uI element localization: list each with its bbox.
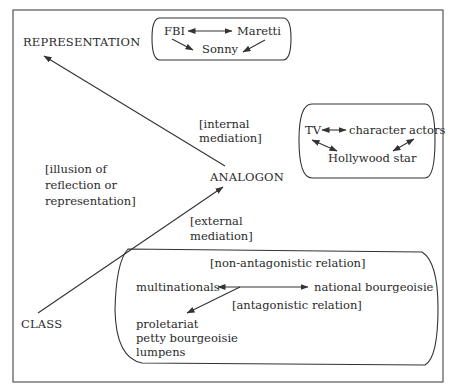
item-national-bourgeoisie: national bourgeoisie	[314, 280, 434, 294]
arrow-tv-hollywood	[312, 140, 337, 151]
diagram-canvas: REPRESENTATION ANALOGON CLASS [illusion …	[0, 0, 450, 392]
analogon-box: TV character actors Hollywood star	[299, 104, 445, 178]
item-multinationals: multinationals	[136, 280, 220, 294]
item-fbi: FBI	[164, 24, 185, 38]
svg-text:[internal: [internal	[199, 117, 250, 131]
label-non-antagonistic: [non-antagonistic relation]	[210, 256, 365, 270]
svg-text:reflection or: reflection or	[45, 178, 117, 192]
arrow-analogon-to-representation	[44, 56, 225, 166]
svg-text:mediation]: mediation]	[190, 229, 253, 243]
item-petty-bourgeoisie: petty bourgeoisie	[136, 331, 238, 345]
arrow-actors-hollywood	[393, 139, 414, 151]
item-hollywood-star: Hollywood star	[328, 151, 417, 165]
svg-text:mediation]: mediation]	[199, 131, 262, 145]
item-tv: TV	[305, 123, 322, 137]
annotation-internal-mediation: [internal mediation]	[199, 117, 262, 145]
node-class: CLASS	[21, 317, 62, 331]
label-antagonistic: [antagonistic relation]	[232, 298, 362, 312]
representation-box: FBI Maretti Sonny	[152, 18, 291, 60]
svg-text:[external: [external	[190, 214, 243, 228]
node-representation: REPRESENTATION	[23, 35, 140, 49]
arrow-fbi-sonny	[172, 39, 193, 50]
annotation-illusion: [illusion of reflection or representatio…	[45, 162, 136, 208]
annotation-external-mediation: [external mediation]	[190, 214, 253, 243]
svg-text:representation]: representation]	[45, 194, 136, 208]
svg-text:[illusion of: [illusion of	[45, 162, 107, 176]
node-analogon: ANALOGON	[209, 170, 284, 184]
item-proletariat: proletariat	[136, 317, 199, 331]
arrow-maretti-sonny	[243, 40, 265, 52]
item-character-actors: character actors	[349, 123, 445, 137]
item-sonny: Sonny	[202, 42, 239, 56]
item-maretti: Maretti	[237, 24, 281, 38]
item-lumpens: lumpens	[136, 345, 186, 359]
class-box: [non-antagonistic relation] multinationa…	[115, 249, 438, 365]
